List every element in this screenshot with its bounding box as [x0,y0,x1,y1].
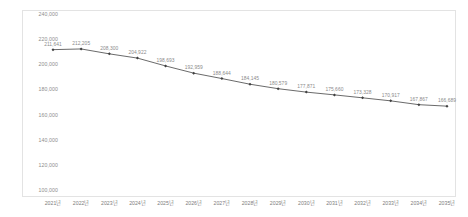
data-point-marker [249,83,252,86]
line-chart: 100,000120,000140,000160,000180,000200,0… [0,0,468,217]
x-axis-tick-label: 2035년 [439,199,456,206]
data-point-label: 184,145 [241,76,259,81]
data-point-marker [417,103,420,106]
data-point-marker [305,91,308,94]
plot-area: 211,641212,205208,300204,922198,693192,9… [44,14,456,190]
data-point-label: 192,959 [185,65,203,70]
x-axis-tick-label: 2025년 [157,199,174,206]
x-axis-tick-label: 2027년 [214,199,231,206]
series-line [44,14,456,190]
data-point-label: 180,579 [269,81,287,86]
data-point-label: 208,300 [100,46,118,51]
data-point-label: 166,689 [438,98,456,103]
data-point-marker [446,105,449,108]
data-point-label: 167,867 [410,97,428,102]
data-point-marker [277,87,280,90]
data-point-marker [192,72,195,75]
x-axis-tick-label: 2026년 [185,199,202,206]
data-point-marker [108,52,111,55]
data-point-label: 173,328 [354,90,372,95]
data-point-marker [389,99,392,102]
x-axis-tick-label: 2022년 [73,199,90,206]
data-point-marker [80,47,83,50]
x-axis-tick-label: 2033년 [382,199,399,206]
x-axis-tick-label: 2030년 [298,199,315,206]
data-point-label: 204,922 [128,50,146,55]
x-axis-tick-label: 2028년 [242,199,259,206]
data-point-label: 212,205 [72,41,90,46]
x-axis-tick-label: 2024년 [129,199,146,206]
data-point-label: 177,871 [297,84,315,89]
x-axis-tick-label: 2029년 [270,199,287,206]
x-axis-tick-label: 2032년 [354,199,371,206]
data-point-marker [136,57,139,60]
data-point-marker [52,48,55,51]
x-axis-tick-label: 2023년 [101,199,118,206]
data-point-marker [220,77,223,80]
data-point-marker [164,64,167,67]
x-axis: 2021년2022년2023년2024년2025년2026년2027년2028년… [0,199,468,213]
x-axis-tick-label: 2031년 [326,199,343,206]
x-axis-tick-label: 2021년 [45,199,62,206]
data-point-marker [333,93,336,96]
data-point-label: 198,693 [157,58,175,63]
data-point-label: 211,641 [44,42,62,47]
data-point-marker [361,96,364,99]
data-point-label: 170,917 [382,93,400,98]
x-axis-tick-label: 2034년 [411,199,428,206]
data-point-label: 175,660 [325,87,343,92]
data-point-label: 188,644 [213,71,231,76]
